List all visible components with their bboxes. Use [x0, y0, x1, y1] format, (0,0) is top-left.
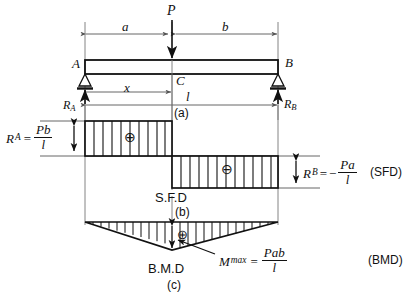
eq-rb-sign: −: [329, 167, 336, 180]
eq-mmax-denominator: l: [262, 261, 287, 275]
equation-mmax: Mmax = Pab l: [219, 247, 287, 275]
reaction-rb-subscript: B: [291, 102, 296, 112]
beam-diagram-svg: [0, 0, 415, 305]
label-dim-a: a: [122, 20, 129, 33]
eq-mmax-fraction: Pab l: [262, 246, 287, 274]
eq-ra-numerator: Pb: [34, 123, 52, 138]
sfd-positive-sign-icon: ⊕: [124, 131, 136, 145]
beam-body: [85, 60, 278, 74]
label-support-b: B: [285, 56, 293, 69]
label-load-point-c: C: [176, 74, 185, 87]
label-dim-l: l: [186, 90, 190, 103]
label-reaction-ra: RA: [63, 99, 76, 113]
label-dim-x: x: [124, 81, 130, 94]
equation-rb: RB = − Pa l: [303, 159, 357, 187]
label-sfd-side: (SFD): [370, 166, 402, 178]
figure-canvas: P a b A B C x l RA RB (a) RA = Pb l ⊕ ⊖: [0, 0, 415, 305]
eq-rb-equals: =: [320, 167, 327, 180]
eq-rb-lhs: R: [303, 167, 311, 180]
eq-ra-denominator: l: [34, 138, 52, 152]
eq-rb-denominator: l: [338, 173, 356, 187]
eq-mmax-equals: =: [250, 255, 257, 268]
support-a: [77, 74, 93, 89]
label-sfd-title: S.F.D: [155, 191, 187, 204]
support-b: [270, 74, 286, 89]
sfd-negative-sign-icon: ⊖: [221, 163, 233, 177]
label-point-load-p: P: [167, 4, 176, 18]
label-part-b: (b): [175, 206, 190, 218]
eq-ra-equals: =: [24, 132, 31, 145]
eq-ra-lhs-sub: A: [15, 133, 21, 142]
bmd-positive-sign-icon: ⊕: [177, 228, 188, 241]
label-bmd-side: (BMD): [368, 254, 403, 266]
label-part-a: (a): [174, 107, 189, 119]
label-bmd-title: B.M.D: [148, 262, 184, 275]
eq-rb-numerator: Pa: [338, 158, 356, 173]
eq-mmax-lhs: M: [219, 255, 230, 268]
equation-ra: RA = Pb l: [6, 124, 52, 152]
eq-ra-lhs: R: [6, 132, 14, 145]
label-part-c: (c): [167, 279, 181, 291]
eq-mmax-numerator: Pab: [262, 246, 287, 261]
eq-ra-fraction: Pb l: [34, 123, 52, 151]
reaction-ra-subscript: A: [70, 103, 75, 113]
eq-mmax-lhs-sub: max: [231, 256, 247, 265]
label-dim-b: b: [222, 20, 229, 33]
eq-rb-fraction: Pa l: [338, 158, 356, 186]
eq-rb-lhs-sub: B: [312, 168, 318, 177]
label-support-a: A: [72, 57, 80, 70]
label-reaction-rb: RB: [284, 98, 297, 112]
